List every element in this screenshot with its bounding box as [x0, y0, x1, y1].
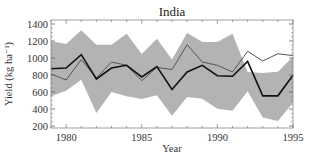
y-tick-label: 200 — [32, 121, 48, 132]
x-tick-label: 1980 — [56, 132, 77, 143]
y-tick-label: 1200 — [27, 36, 48, 47]
y-axis-label: Yield (kg ha⁻¹) — [3, 41, 15, 106]
x-tick-label: 1995 — [283, 132, 304, 143]
x-tick-label: 1985 — [131, 132, 152, 143]
chart-title: India — [159, 4, 186, 19]
yield-chart: India 200400600800100012001400 198019851… — [0, 0, 317, 160]
y-tick-label: 1400 — [27, 19, 48, 30]
y-tick-label: 800 — [32, 70, 48, 81]
y-tick-label: 600 — [32, 87, 48, 98]
x-axis-label: Year — [162, 143, 182, 154]
y-tick-label: 400 — [32, 104, 48, 115]
x-tick-label: 1990 — [207, 132, 228, 143]
y-tick-label: 1000 — [27, 53, 48, 64]
plot-area — [51, 30, 293, 121]
range-band — [51, 30, 293, 121]
